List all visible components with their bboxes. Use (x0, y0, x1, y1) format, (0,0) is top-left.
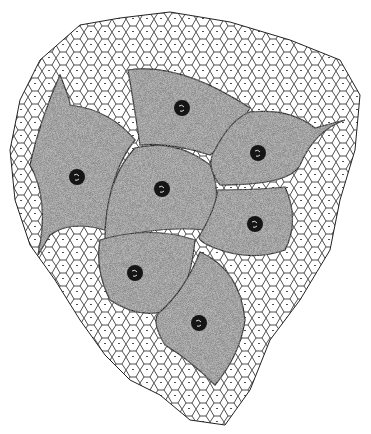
nucleus-upper-right (250, 145, 266, 161)
cell-illustration (0, 0, 371, 434)
nucleus-left (69, 169, 85, 185)
nucleus-right (247, 216, 263, 232)
nucleus-lower-left (127, 265, 143, 281)
nucleus-top (174, 100, 190, 116)
nucleus-bottom (191, 315, 207, 331)
nucleus-center (154, 181, 170, 197)
